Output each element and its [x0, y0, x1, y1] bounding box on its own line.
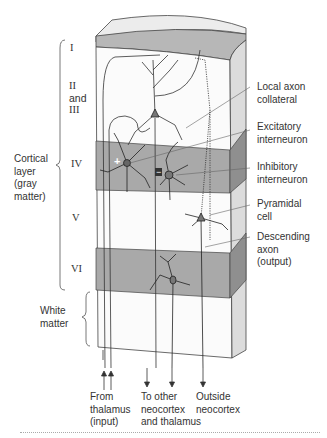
label-line: interneuron	[257, 134, 308, 147]
layer-label-ii-iii: II and III	[69, 80, 87, 116]
label-line: Local axon	[257, 81, 305, 94]
layer-label-ii: II	[69, 80, 87, 92]
label-line: axon	[257, 244, 310, 257]
label-local-axon-collateral: Local axon collateral	[257, 81, 305, 106]
label-line: (gray	[14, 178, 48, 191]
layer-label-i: I	[70, 42, 74, 54]
label-inhibitory-interneuron: Inhibitory interneuron	[257, 161, 308, 186]
layer-label-iv: IV	[71, 158, 82, 170]
input-arrows	[102, 371, 114, 390]
label-line: collateral	[257, 94, 305, 107]
label-line: From	[90, 391, 131, 404]
label-line: Excitatory	[257, 121, 308, 134]
label-descending-axon: Descending axon (output)	[257, 231, 310, 269]
label-line: interneuron	[257, 174, 308, 187]
layer-vi-band	[96, 248, 230, 298]
label-to-other-neocortex: To other neocortex and thalamus	[141, 391, 201, 429]
excitatory-marker: +	[114, 155, 120, 168]
label-line: neocortex	[196, 404, 240, 417]
label-line: neocortex	[141, 404, 201, 417]
label-line: thalamus	[90, 404, 131, 417]
label-line: (input)	[90, 416, 131, 429]
block-front-face	[96, 47, 232, 358]
layer-label-vi: VI	[71, 263, 82, 275]
layer-label-iii: III	[69, 104, 87, 116]
layer-label-and: and	[69, 92, 87, 104]
label-pyramidal-cell: Pyramidal cell	[257, 198, 301, 223]
cropped-caption-fragment	[20, 432, 320, 435]
label-line: Descending	[257, 231, 310, 244]
layer-vi-soma	[170, 276, 176, 284]
inhibitory-soma	[165, 171, 173, 179]
label-excitatory-interneuron: Excitatory interneuron	[257, 121, 308, 146]
block-side-face	[230, 40, 246, 358]
label-outside-neocortex: Outside neocortex	[196, 391, 240, 416]
label-line: White	[40, 305, 68, 318]
layer-label-v: V	[72, 212, 80, 224]
label-line: and thalamus	[141, 416, 201, 429]
label-line: (output)	[257, 256, 310, 269]
label-line: cell	[257, 211, 301, 224]
label-line: Inhibitory	[257, 161, 308, 174]
output-arrows	[145, 368, 206, 387]
label-line: Outside	[196, 391, 240, 404]
white-matter-bracket	[82, 292, 90, 346]
label-line: Cortical	[14, 153, 48, 166]
label-line: Pyramidal	[257, 198, 301, 211]
label-line: layer	[14, 166, 48, 179]
label-from-thalamus: From thalamus (input)	[90, 391, 131, 429]
label-line: To other	[141, 391, 201, 404]
excitatory-soma	[124, 160, 131, 167]
white-matter-label: White matter	[40, 305, 68, 330]
cortical-layer-label: Cortical layer (gray matter)	[14, 153, 48, 203]
label-line: matter	[40, 318, 68, 331]
inhibitory-marker: −	[155, 168, 162, 176]
label-line: matter)	[14, 191, 48, 204]
cortical-bracket	[56, 40, 65, 290]
